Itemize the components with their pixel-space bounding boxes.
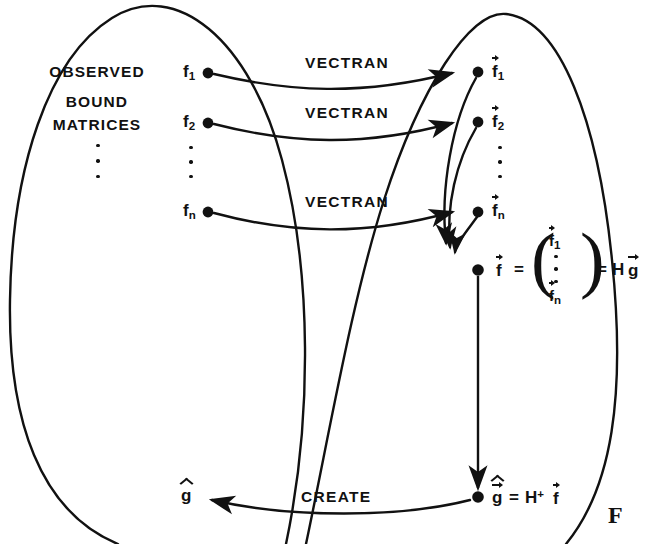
left-set-label-line-3: MATRICES [22,117,172,133]
equation-pseudoinverse-rhs-operand: f [553,489,559,507]
label-fn: fn [183,202,196,222]
left-nodes-ellipsis [188,146,194,178]
matrix-right-paren: ) [580,222,605,296]
label-fvecn: fn [492,201,505,222]
hat-vector-accent-g: g [492,489,502,506]
label-g-hat-output-base: g [181,486,191,505]
matrix-row-3-base: f [549,288,554,303]
figure-canvas: OBSERVED BOUND MATRICES f1 f2 fn VECTRAN… [0,0,646,544]
equation-pseudoinverse-equals: = [509,489,519,506]
label-f2: f2 [183,113,195,133]
vector-arrow-accent-f-rhs: f [553,489,559,507]
node-dot-fvec2 [473,117,484,128]
label-fvec2-base: f [492,113,498,130]
vectran-curve-3 [214,212,452,229]
vector-arrow-accent-f: f [496,261,502,279]
label-fvec2: f2 [492,112,504,133]
equation-stacked-equals: = [514,261,524,278]
vector-arrow-accent-fvecn: f [492,201,498,219]
node-dot-fvec1 [473,67,484,78]
equation-pseudoinverse-lhs-base: g [492,489,502,506]
edge-label-create: CREATE [301,489,371,505]
node-dot-fvec [472,264,484,276]
node-dot-fn [203,207,214,218]
converge-curve-3 [455,217,477,252]
left-set-ellipsis [95,144,101,178]
right-nodes-ellipsis [497,146,503,178]
matrix-row-3: fn [549,287,561,307]
left-set-label-line-2: BOUND [22,94,172,110]
matrix-row-1-base: f [549,233,554,248]
node-dot-ghatvec [472,491,484,503]
vector-tip-mark [499,482,503,488]
left-set-label-line-1: OBSERVED [22,64,172,80]
label-fvecn-base: f [492,202,498,219]
vector-arrow-accent-g: g [628,261,638,279]
label-f1: f1 [183,63,195,83]
equation-stacked-lhs-base: f [496,262,502,279]
right-set-boundary [306,14,617,544]
node-dot-f2 [203,118,214,129]
equation-pseudoinverse-rhs-operand-base: f [553,490,559,507]
equation-stacked-rhs-operand-base: g [628,262,638,279]
vector-arrow-accent-fvec2: f [492,112,498,130]
label-fvec1-base: f [492,63,498,80]
equation-pseudoinverse-operator-base: H [525,488,537,507]
equation-stacked-equals-2: = [597,261,607,278]
equation-pseudoinverse-rhs-operator: H+ [525,489,544,506]
label-fvecn-subscript: n [498,209,505,221]
matrix-row-1-subscript: 1 [554,239,560,251]
label-f2-subscript: 2 [189,120,195,132]
equation-pseudoinverse-operator-superscript: + [537,488,544,500]
hat-accent-g-output: g [181,487,191,504]
edge-label-vectran-1: VECTRAN [305,55,389,71]
equation-stacked-rhs-operand: g [628,261,638,279]
label-fvec1-subscript: 1 [498,70,504,82]
node-dot-f1 [203,68,214,79]
matrix-row-1: f1 [549,232,560,252]
figure-caption-letter: F [608,502,623,529]
vector-arrow-accent-fn-stack: f [549,287,554,303]
label-fvec1: f1 [492,62,504,83]
edge-label-vectran-3: VECTRAN [305,194,389,210]
label-fn-subscript: n [189,209,196,221]
left-set-boundary [10,6,305,544]
label-fvec2-subscript: 2 [498,120,504,132]
converge-curve-2 [449,128,476,247]
label-g-hat-output: g [181,487,191,504]
vector-arrow-accent-fvec1: f [492,62,498,80]
equation-pseudoinverse-lhs: g [492,489,502,506]
vectran-curve-2 [214,123,452,140]
matrix-row-3-subscript: n [554,294,561,306]
edge-label-vectran-2: VECTRAN [305,105,389,121]
vectran-curve-1 [214,73,452,89]
equation-stacked-lhs: f [496,261,502,279]
equation-stacked-rhs-operator: H [612,261,624,278]
vector-arrow-accent-f1-stack: f [549,232,554,248]
node-dot-fvecn [473,207,484,218]
label-f1-subscript: 1 [189,70,195,82]
